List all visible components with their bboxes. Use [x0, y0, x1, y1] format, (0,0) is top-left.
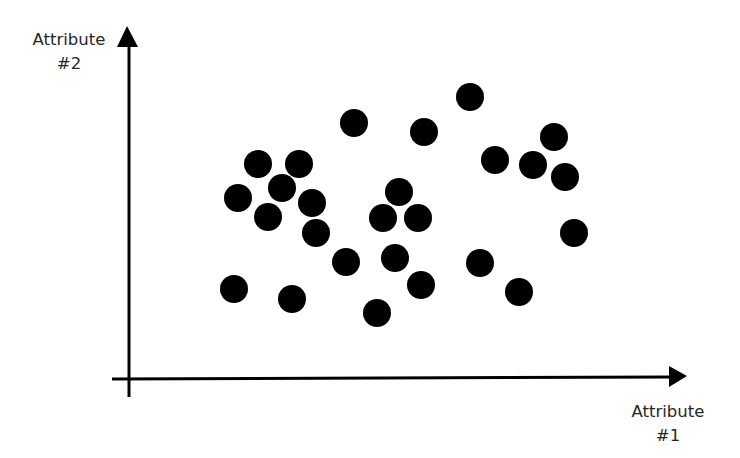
data-point: [332, 248, 360, 276]
data-point: [268, 174, 296, 202]
y-axis-label-line1: Attribute: [33, 30, 106, 49]
data-point: [404, 204, 432, 232]
y-axis-arrow-icon: [117, 26, 138, 47]
data-point: [560, 219, 588, 247]
data-point: [340, 109, 368, 137]
data-point: [519, 151, 547, 179]
points-layer: [220, 83, 588, 327]
data-point: [254, 203, 282, 231]
x-axis: [112, 377, 671, 379]
data-point: [369, 204, 397, 232]
data-point: [456, 83, 484, 111]
data-point: [540, 123, 568, 151]
data-point: [551, 163, 579, 191]
data-point: [220, 275, 248, 303]
data-point: [407, 271, 435, 299]
x-axis-arrow-icon: [669, 366, 687, 387]
data-point: [385, 178, 413, 206]
data-point: [285, 150, 313, 178]
data-point: [302, 219, 330, 247]
y-axis-label-line2: #2: [57, 54, 81, 73]
data-point: [505, 278, 533, 306]
data-point: [363, 299, 391, 327]
data-point: [481, 146, 509, 174]
data-point: [298, 189, 326, 217]
x-axis-label-line2: #1: [656, 426, 680, 445]
data-point: [466, 249, 494, 277]
data-point: [244, 150, 272, 178]
x-axis-label-line1: Attribute: [632, 402, 705, 421]
data-point: [410, 118, 438, 146]
data-point: [381, 244, 409, 272]
data-point: [278, 285, 306, 313]
scatter-plot: Attribute #2 Attribute #1: [0, 0, 740, 458]
data-point: [224, 184, 252, 212]
